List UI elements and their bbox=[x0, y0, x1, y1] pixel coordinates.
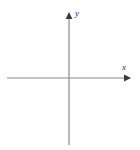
y-axis-arrow-icon bbox=[66, 12, 73, 19]
axes-svg bbox=[0, 0, 140, 150]
coordinate-plane-figure: y x bbox=[0, 0, 140, 150]
x-axis-label: x bbox=[122, 63, 126, 72]
y-axis-label: y bbox=[75, 9, 79, 18]
x-axis-arrow-icon bbox=[124, 75, 131, 82]
